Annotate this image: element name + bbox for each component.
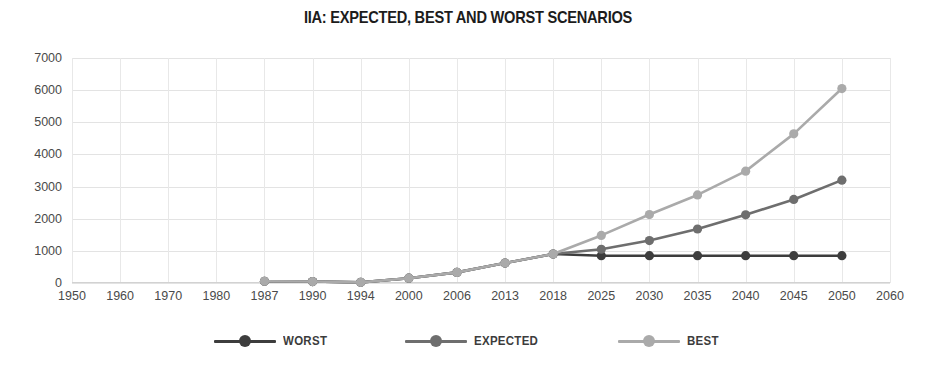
line-marker-icon [405, 334, 467, 348]
data-point-marker [789, 129, 798, 138]
y-axis-tick-label: 5000 [2, 115, 62, 129]
gridline-horizontal [72, 283, 890, 284]
y-axis-tick-label: 0 [2, 276, 62, 290]
y-axis-tick-label: 3000 [2, 180, 62, 194]
y-axis-tick-label: 7000 [2, 51, 62, 65]
data-point-marker [308, 277, 317, 286]
data-point-marker [549, 249, 558, 258]
gridline-vertical [890, 58, 891, 283]
data-point-marker [452, 268, 461, 277]
data-point-marker [597, 231, 606, 240]
legend-label: BEST [687, 334, 719, 348]
data-point-marker [645, 236, 654, 245]
y-axis-tick-label: 2000 [2, 212, 62, 226]
data-point-marker [500, 258, 509, 267]
line-marker-icon [214, 334, 276, 348]
data-point-marker [356, 278, 365, 287]
data-point-marker [789, 251, 798, 260]
data-point-marker [837, 251, 846, 260]
chart-title: IIA: EXPECTED, BEST AND WORST SCENARIOS [66, 8, 871, 28]
legend-marker-dot [430, 335, 442, 347]
data-point-marker [693, 224, 702, 233]
data-point-marker [789, 195, 798, 204]
series-layer [72, 58, 890, 283]
data-point-marker [645, 210, 654, 219]
data-point-marker [837, 84, 846, 93]
x-axis-tick-label: 2060 [862, 289, 918, 303]
plot-area [72, 58, 890, 283]
data-point-marker [260, 277, 269, 286]
series-line [264, 180, 841, 282]
data-point-marker [597, 245, 606, 254]
series-expected [260, 176, 847, 287]
data-point-marker [693, 190, 702, 199]
legend-marker-dot [643, 335, 655, 347]
legend-item-expected[interactable]: EXPECTED [405, 334, 544, 348]
legend-label: WORST [283, 334, 327, 348]
legend-item-worst[interactable]: WORST [214, 334, 331, 348]
data-point-marker [837, 176, 846, 185]
data-point-marker [741, 210, 750, 219]
y-axis-tick-label: 4000 [2, 147, 62, 161]
legend-label: EXPECTED [474, 334, 538, 348]
chart-legend: WORSTEXPECTEDBEST [0, 334, 936, 348]
data-point-marker [645, 251, 654, 260]
y-axis-tick-label: 1000 [2, 244, 62, 258]
line-chart: IIA: EXPECTED, BEST AND WORST SCENARIOS … [0, 0, 936, 379]
data-point-marker [693, 251, 702, 260]
data-point-marker [404, 274, 413, 283]
line-marker-icon [618, 334, 680, 348]
legend-marker-dot [239, 335, 251, 347]
legend-item-best[interactable]: BEST [618, 334, 722, 348]
data-point-marker [741, 251, 750, 260]
y-axis-tick-label: 6000 [2, 83, 62, 97]
data-point-marker [741, 167, 750, 176]
